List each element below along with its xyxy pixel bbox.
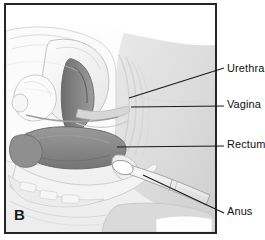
- callout-label-vagina: Vagina: [227, 99, 261, 110]
- panel-letter: B: [14, 207, 25, 222]
- callout-label-urethra: Urethra: [227, 63, 264, 74]
- sigmoid-colon: [10, 135, 43, 168]
- figure-page: Urethra Vagina Rectum Anus B: [0, 0, 265, 240]
- callout-label-rectum: Rectum: [227, 139, 265, 150]
- pubic-symphysis: [12, 94, 28, 112]
- callout-label-anus: Anus: [227, 206, 252, 217]
- thigh-highlight: [156, 216, 212, 232]
- figure-frame: [4, 3, 217, 234]
- anatomy-illustration: [6, 5, 215, 232]
